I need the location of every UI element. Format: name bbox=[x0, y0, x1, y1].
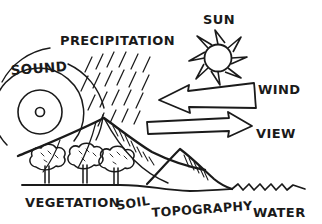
water-label: WATER bbox=[253, 205, 306, 220]
view-label: VIEW bbox=[256, 126, 296, 141]
precipitation-icon bbox=[81, 52, 150, 126]
precipitation-label: PRECIPITATION bbox=[60, 33, 175, 48]
wind-arrow-icon bbox=[159, 83, 256, 113]
sound-label: SOUND bbox=[10, 58, 68, 78]
wind-label: WIND bbox=[258, 82, 300, 97]
sun-label: SUN bbox=[203, 12, 235, 27]
site-analysis-sketch: SOUND PRECIPITATION SUN WIND VIEW VEGETA… bbox=[0, 0, 322, 224]
topography-label: TOPOGRAPHY bbox=[151, 198, 254, 220]
vegetation-label: VEGETATION bbox=[25, 195, 120, 210]
water-icon bbox=[232, 184, 305, 190]
view-arrow-icon bbox=[147, 112, 252, 137]
vegetation-icon bbox=[30, 143, 134, 184]
sun-icon bbox=[189, 30, 247, 85]
soil-ground-line bbox=[22, 185, 232, 191]
soil-label: SOIL bbox=[115, 193, 151, 213]
